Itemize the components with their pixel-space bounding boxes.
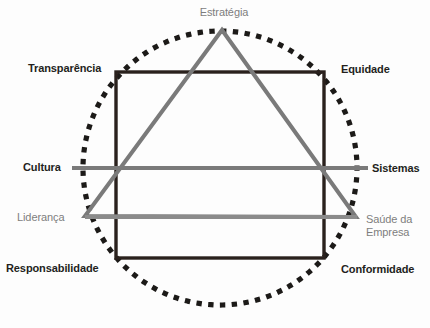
label-cultura: Cultura [23,161,61,174]
diagram-canvas [0,0,430,328]
label-responsabilidade: Responsabilidade [6,262,99,275]
square-shape [116,72,324,258]
label-saude-empresa-line1: Saúde da [366,213,412,225]
label-saude-empresa: Saúde da Empresa [366,213,424,239]
label-saude-empresa-line2: Empresa [366,226,409,238]
label-conformidade: Conformidade [341,263,414,276]
label-transparencia: Transparência [28,62,101,75]
label-estrategia: Estratégia [188,6,260,19]
label-lideranca: Liderança [17,211,64,224]
label-sistemas: Sistemas [372,162,420,175]
governance-diagram: Estratégia Transparência Equidade Cultur… [0,0,430,328]
triangle-shape [85,30,356,217]
label-equidade: Equidade [341,63,390,76]
